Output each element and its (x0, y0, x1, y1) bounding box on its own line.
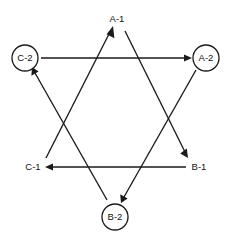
edge-c2-to-a2 (41, 54, 192, 61)
edge-b1-to-c1 (45, 163, 186, 170)
hexagram-diagram: A-1 C-2 A-2 C-1 B-1 B-2 (0, 0, 232, 243)
node-a2-label: A-2 (199, 52, 214, 63)
node-b2[interactable]: B-2 (102, 204, 128, 230)
diagram-canvas: A-1 C-2 A-2 C-1 B-1 B-2 (0, 0, 232, 243)
node-c1-label: C-1 (25, 161, 40, 172)
node-a1-label: A-1 (110, 13, 125, 24)
node-a1[interactable]: A-1 (110, 13, 125, 24)
node-b1-label: B-1 (192, 161, 207, 172)
node-b2-label: B-2 (108, 211, 123, 222)
arrowhead-c1 (45, 163, 53, 170)
edge-c1-to-a1 (46, 26, 114, 158)
node-b1[interactable]: B-1 (192, 161, 207, 172)
arrowhead-a2 (184, 54, 192, 61)
edge-b2-to-c2 (31, 67, 107, 200)
node-a2[interactable]: A-2 (193, 45, 219, 71)
node-c1[interactable]: C-1 (25, 161, 40, 172)
node-c2[interactable]: C-2 (12, 45, 38, 71)
edge-a2-to-b2 (120, 70, 196, 203)
node-c2-label: C-2 (17, 52, 32, 63)
arrowhead-b2 (120, 194, 127, 203)
